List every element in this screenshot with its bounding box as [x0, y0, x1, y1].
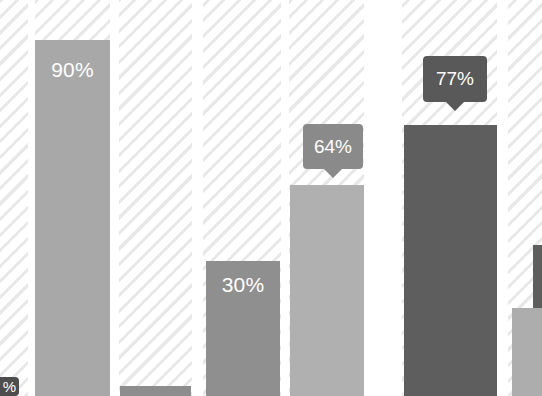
- bar-value-label: 90%: [35, 58, 110, 82]
- bar-value-label: 30%: [206, 273, 280, 297]
- bar-90[interactable]: 90%: [35, 40, 110, 396]
- bar-short[interactable]: [120, 386, 191, 396]
- bar-30[interactable]: 30%: [206, 261, 280, 396]
- bar-chart: 90%30% 64%77% %: [0, 0, 542, 396]
- corner-badge-label: %: [3, 378, 16, 395]
- callout-value-label: 64%: [314, 136, 352, 158]
- bar-77[interactable]: [404, 125, 497, 396]
- callout-64[interactable]: 64%: [303, 124, 363, 169]
- bar-tail-clipped[interactable]: [512, 308, 542, 396]
- callout-pointer-icon: [446, 102, 464, 111]
- bar-64[interactable]: [290, 185, 364, 396]
- column-band: [0, 0, 28, 396]
- callout-value-label: 77%: [436, 68, 474, 90]
- column-band: [119, 0, 192, 396]
- corner-badge-clipped[interactable]: %: [0, 377, 19, 396]
- callout-77[interactable]: 77%: [423, 56, 487, 102]
- callout-pointer-icon: [324, 169, 342, 178]
